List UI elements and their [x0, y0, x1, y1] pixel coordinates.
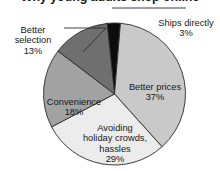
slice-label-better-prices-text: Better prices [129, 82, 181, 92]
slice-label-convenience-text: Convenience [47, 97, 101, 107]
slice-label-better-selection-text: Better selection [15, 25, 52, 46]
slice-label-ships-directly-text: Ships directly [158, 18, 213, 28]
slice-label-better-prices: Better prices 37% [118, 71, 192, 113]
slice-label-avoiding-crowds-text: Avoiding holiday crowds, hassles [83, 123, 147, 154]
slice-label-ships-directly: Ships directly 3% [152, 7, 220, 49]
slice-label-avoiding-crowds: Avoiding holiday crowds, hassles 29% [62, 112, 168, 171]
slice-label-better-prices-value: 37% [118, 92, 192, 103]
slice-label-ships-directly-value: 3% [152, 28, 220, 39]
slice-label-better-selection: Better selection 13% [2, 14, 64, 67]
slice-label-avoiding-crowds-value: 29% [62, 154, 168, 165]
slice-label-better-selection-value: 13% [2, 46, 64, 57]
pie-chart-figure: Why young adults shop online Ships direc… [0, 0, 220, 171]
